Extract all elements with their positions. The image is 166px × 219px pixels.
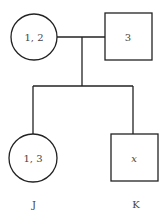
child-k-name: K <box>132 199 140 210</box>
father-label: 3 <box>125 32 131 43</box>
child-j-name: J <box>31 199 36 210</box>
child-j-label: 1, 3 <box>23 153 42 164</box>
mother-label: 1, 2 <box>24 32 43 43</box>
child-k-label: x <box>131 153 137 164</box>
pedigree-diagram: 1, 2 3 1, 3 x J K <box>0 0 166 219</box>
